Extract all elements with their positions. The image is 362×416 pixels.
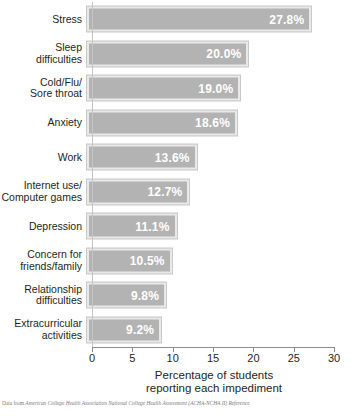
bar-track: 9.8% — [86, 278, 362, 313]
bar-value-label: 9.8% — [131, 288, 164, 302]
bar[interactable]: 11.1% — [87, 214, 177, 239]
category-label: Anxiety — [0, 117, 86, 129]
bar-track: 27.8% — [86, 2, 362, 37]
category-label: Work — [0, 152, 86, 164]
chart-row: Extracurricular activities 9.2% — [0, 313, 362, 348]
bar-value-label: 13.6% — [155, 150, 195, 164]
chart-row: Anxiety 18.6% — [0, 106, 362, 141]
bar-value-label: 9.2% — [126, 323, 159, 337]
bar[interactable]: 20.0% — [87, 41, 248, 66]
x-axis-title: Percentage of students reporting each im… — [92, 369, 336, 395]
category-label: Internet use/ Computer games — [0, 180, 86, 203]
bar-value-label: 20.0% — [206, 47, 246, 61]
bar-track: 19.0% — [86, 71, 362, 106]
x-axis-tick-label: 25 — [288, 352, 300, 364]
bar[interactable]: 27.8% — [87, 7, 311, 32]
y-axis-line — [92, 2, 93, 347]
bar-value-label: 12.7% — [147, 185, 187, 199]
category-label: Depression — [0, 221, 86, 233]
x-axis-tick-label: 20 — [247, 352, 259, 364]
chart-row: Concern for friends/family 10.5% — [0, 244, 362, 279]
x-axis-tick-label: 0 — [89, 352, 95, 364]
bar[interactable]: 12.7% — [87, 179, 189, 204]
bar-track: 12.7% — [86, 175, 362, 210]
caption-prefix: Data from — [2, 400, 25, 406]
category-label: Extracurricular activities — [0, 318, 86, 341]
bar-track: 9.2% — [86, 313, 362, 348]
x-axis-tick-label: 15 — [207, 352, 219, 364]
bar-track: 13.6% — [86, 140, 362, 175]
chart-row: Sleep difficulties 20.0% — [0, 37, 362, 72]
chart-rows: Stress 27.8% Sleep difficulties 20.0% Co… — [0, 2, 362, 347]
bar[interactable]: 9.8% — [87, 283, 166, 308]
chart-row: Internet use/ Computer games 12.7% — [0, 175, 362, 210]
bar-track: 10.5% — [86, 244, 362, 279]
x-axis-tick-label: 10 — [167, 352, 179, 364]
bar[interactable]: 19.0% — [87, 76, 240, 101]
bar[interactable]: 13.6% — [87, 145, 197, 170]
chart-row: Work 13.6% — [0, 140, 362, 175]
bar[interactable]: 18.6% — [87, 110, 237, 135]
x-axis-tick-label: 30 — [328, 352, 340, 364]
bar-value-label: 10.5% — [130, 254, 170, 268]
bar-track: 20.0% — [86, 37, 362, 72]
bar-value-label: 18.6% — [195, 116, 235, 130]
bar-value-label: 27.8% — [269, 12, 309, 26]
bar-chart: Stress 27.8% Sleep difficulties 20.0% Co… — [0, 0, 362, 416]
bar[interactable]: 9.2% — [87, 317, 161, 342]
category-label: Stress — [0, 14, 86, 26]
source-caption: Data from American College Health Associ… — [2, 400, 360, 407]
category-label: Concern for friends/family — [0, 249, 86, 272]
chart-row: Depression 11.1% — [0, 209, 362, 244]
bar-value-label: 19.0% — [198, 81, 238, 95]
bar-track: 11.1% — [86, 209, 362, 244]
bar-value-label: 11.1% — [135, 219, 174, 233]
bar-track: 18.6% — [86, 106, 362, 141]
bar[interactable]: 10.5% — [87, 248, 172, 273]
x-axis-tick-label: 5 — [129, 352, 135, 364]
chart-row: Relationship difficulties 9.8% — [0, 278, 362, 313]
category-label: Cold/Flu/ Sore throat — [0, 77, 86, 100]
category-label: Sleep difficulties — [0, 42, 86, 65]
caption-source: American College Health Association Nati… — [25, 400, 249, 406]
chart-row: Cold/Flu/ Sore throat 19.0% — [0, 71, 362, 106]
chart-row: Stress 27.8% — [0, 2, 362, 37]
category-label: Relationship difficulties — [0, 284, 86, 307]
